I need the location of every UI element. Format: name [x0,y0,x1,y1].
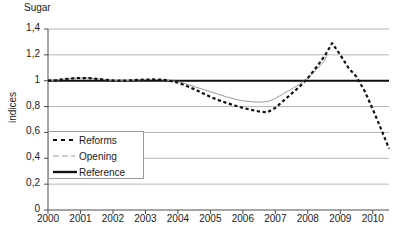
legend-swatch-reference [49,165,79,179]
y-tick-label: 1,4 [14,22,40,33]
x-tick-label: 2008 [291,213,325,224]
x-tick-label: 2005 [193,213,227,224]
y-tick-label: 0,6 [14,125,40,136]
plot-area [0,0,402,237]
x-tick-label: 2000 [31,213,65,224]
legend-label-reforms: Reforms [79,135,117,146]
legend: Reforms Opening Reference [48,131,144,179]
y-tick-label: 0,2 [14,177,40,188]
x-tick-label: 2003 [128,213,162,224]
x-tick-label: 2010 [356,213,390,224]
y-tick-label: 1,2 [14,48,40,59]
x-tick-label: 2002 [96,213,130,224]
y-tick-label: 0,8 [14,100,40,111]
y-tick-label: 0,4 [14,151,40,162]
legend-label-opening: Opening [79,151,117,162]
x-tick-label: 2006 [226,213,260,224]
legend-item-opening: Opening [49,148,143,164]
x-tick-label: 2001 [63,213,97,224]
legend-item-reference: Reference [49,164,143,180]
x-tick-label: 2004 [161,213,195,224]
sugar-index-chart: Sugar indices 00,20,40,60,811,21,4 20002… [0,0,402,237]
legend-swatch-opening [49,149,79,163]
gridlines [48,29,389,210]
y-tick-label: 1 [14,74,40,85]
x-tick-label: 2009 [323,213,357,224]
x-tick-label: 2007 [258,213,292,224]
legend-swatch-reforms [49,133,79,147]
y-axis-tick-marks [44,29,48,210]
legend-item-reforms: Reforms [49,132,143,148]
legend-label-reference: Reference [79,167,125,178]
